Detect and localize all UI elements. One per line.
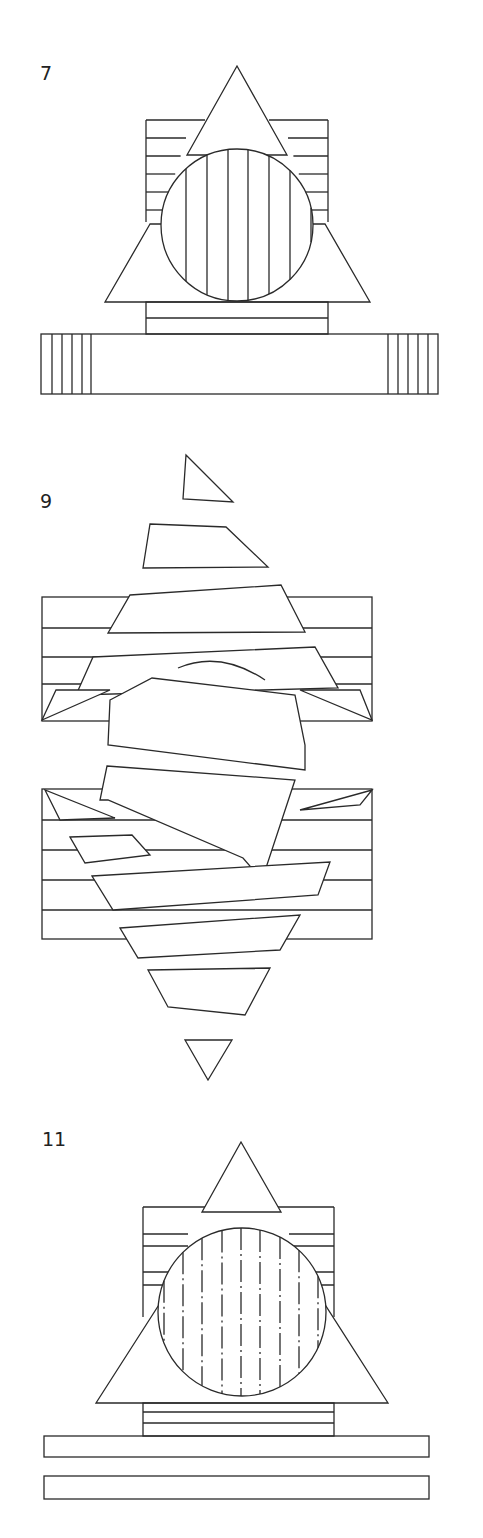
shard-6 bbox=[108, 678, 305, 770]
shard-14 bbox=[185, 1040, 232, 1080]
shard-13 bbox=[148, 968, 270, 1015]
bar-upper bbox=[44, 1436, 429, 1457]
shard-2 bbox=[108, 585, 305, 633]
base-bar bbox=[41, 334, 438, 394]
shard-9 bbox=[300, 790, 372, 810]
figure-11 bbox=[44, 1142, 429, 1499]
shard-11 bbox=[92, 862, 330, 910]
bar-lower bbox=[44, 1476, 429, 1499]
diagram-canvas bbox=[0, 0, 483, 1538]
shard-12 bbox=[120, 915, 300, 958]
shard-0 bbox=[183, 455, 233, 502]
figure-9 bbox=[42, 455, 372, 1080]
base-block bbox=[143, 1403, 334, 1436]
top-triangle bbox=[187, 66, 287, 155]
shard-4 bbox=[42, 690, 110, 720]
top-triangle bbox=[202, 1142, 281, 1212]
figure-7 bbox=[41, 66, 438, 394]
shard-10 bbox=[70, 835, 150, 863]
shard-1 bbox=[143, 524, 268, 568]
shard-7 bbox=[100, 766, 295, 880]
shard-5 bbox=[300, 690, 372, 720]
